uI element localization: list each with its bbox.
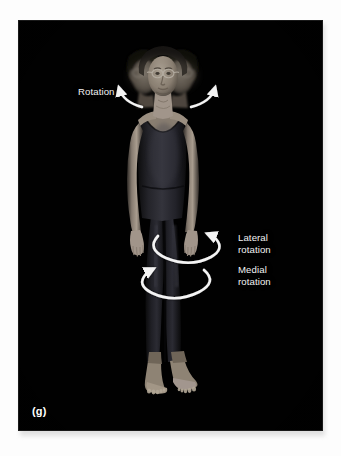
annotation-rotation-label: Rotation <box>78 86 115 98</box>
panel-letter: (g) <box>32 405 47 417</box>
annotation-medial-rotation-label: Medial rotation <box>238 264 271 287</box>
figure-canvas: Rotation Lateral rotation Medial rotatio… <box>0 0 341 456</box>
annotation-lateral-rotation-label: Lateral rotation <box>238 232 271 255</box>
photo-plate: Rotation Lateral rotation Medial rotatio… <box>18 20 323 431</box>
subject-photograph <box>18 20 323 431</box>
